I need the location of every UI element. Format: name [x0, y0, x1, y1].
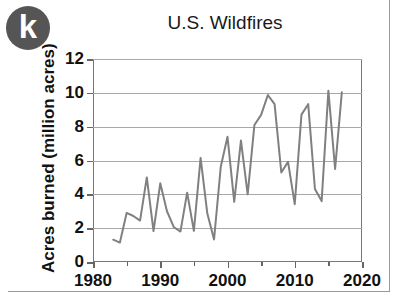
y-tick-label-0: 0 [75, 252, 84, 272]
x-tick-mark-1980 [93, 262, 95, 268]
y-tick-label-6: 6 [75, 151, 84, 171]
series-polyline [113, 91, 342, 243]
plot-area: 024681012 19801990200020102020 [93, 59, 362, 262]
x-tick-mark-minor-2005 [261, 262, 263, 266]
y-tick-label-2: 2 [75, 218, 84, 238]
x-tick-label-1990: 1990 [141, 271, 179, 291]
series-line-chart [93, 59, 362, 262]
x-tick-mark-2010 [295, 262, 297, 268]
x-tick-mark-2020 [362, 262, 364, 268]
y-tick-label-4: 4 [75, 184, 84, 204]
x-tick-label-1980: 1980 [74, 271, 112, 291]
page-border-right [389, 0, 390, 292]
y-tick-label-12: 12 [65, 49, 84, 69]
y-axis-title: Acres burned (million acres) [39, 53, 59, 273]
x-tick-mark-minor-2015 [328, 262, 330, 266]
y-tick-label-8: 8 [75, 117, 84, 137]
x-tick-mark-minor-1995 [194, 262, 196, 266]
x-tick-mark-2000 [228, 262, 230, 268]
x-tick-label-2010: 2010 [276, 271, 314, 291]
screenshot-page: k U.S. Wildfires Acres burned (million a… [0, 0, 407, 304]
x-tick-label-2000: 2000 [209, 271, 247, 291]
x-tick-mark-minor-1985 [127, 262, 129, 266]
x-tick-mark-1990 [160, 262, 162, 268]
chart-title: U.S. Wildfires [120, 12, 330, 34]
y-tick-label-10: 10 [65, 83, 84, 103]
page-border-bottom [8, 291, 390, 292]
x-tick-label-2020: 2020 [343, 271, 381, 291]
